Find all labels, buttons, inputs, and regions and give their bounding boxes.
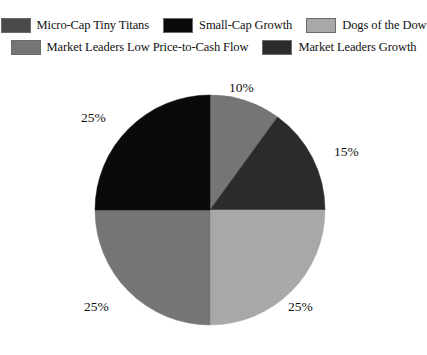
pie-chart-svg — [0, 78, 427, 355]
legend-swatch-icon — [11, 40, 41, 55]
legend-item-label: Market Leaders Growth — [298, 41, 416, 54]
chart-legend: Micro-Cap Tiny Titans Small-Cap Growth D… — [0, 18, 427, 62]
pie-slice[interactable] — [95, 210, 210, 325]
legend-swatch-icon — [1, 18, 31, 33]
legend-item-dogs-of-the-dow[interactable]: Dogs of the Dow — [306, 18, 426, 33]
legend-item-label: Small-Cap Growth — [199, 19, 292, 32]
legend-row: Micro-Cap Tiny Titans Small-Cap Growth D… — [0, 18, 427, 33]
legend-item-micro-cap-tiny-titans[interactable]: Micro-Cap Tiny Titans — [1, 18, 150, 33]
legend-swatch-icon — [163, 18, 193, 33]
legend-item-market-leaders-low-price-to-cash-flow[interactable]: Market Leaders Low Price-to-Cash Flow — [11, 40, 249, 55]
legend-item-market-leaders-growth[interactable]: Market Leaders Growth — [262, 40, 416, 55]
pie-slice[interactable] — [95, 95, 210, 210]
legend-item-label: Dogs of the Dow — [342, 19, 426, 32]
pie-chart: 10% 15% 25% 25% 25% — [0, 78, 427, 355]
legend-swatch-icon — [306, 18, 336, 33]
pie-slice-label: 25% — [81, 111, 106, 125]
pie-slice-label: 15% — [334, 145, 359, 159]
pie-slice-label: 25% — [84, 300, 109, 314]
legend-swatch-icon — [262, 40, 292, 55]
legend-item-small-cap-growth[interactable]: Small-Cap Growth — [163, 18, 292, 33]
legend-item-label: Micro-Cap Tiny Titans — [37, 19, 150, 32]
pie-slice-label: 10% — [229, 81, 254, 95]
legend-item-label: Market Leaders Low Price-to-Cash Flow — [47, 41, 249, 54]
pie-slice-label: 25% — [288, 300, 313, 314]
legend-row: Market Leaders Low Price-to-Cash Flow Ma… — [0, 40, 427, 55]
